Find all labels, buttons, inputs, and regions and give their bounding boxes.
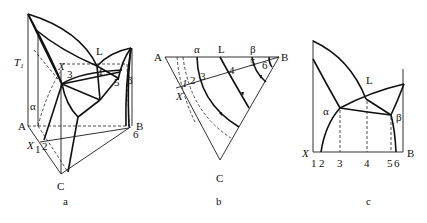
label-vertex-c-b: C [216,172,223,184]
label-x-a: X [26,139,35,151]
label-liquid-a: L [96,45,103,57]
tick-6-c: 6 [394,157,400,169]
label-point-5-a: 5 [114,76,120,88]
caption-a: a [63,195,68,207]
label-vertex-c-a: C [57,180,64,192]
label-vertex-a-b: A [154,51,162,63]
label-alpha-c: α [323,105,329,117]
label-point-6-a: 6 [133,128,139,140]
label-point-2-b: 2 [190,74,196,86]
label-b-c: B [407,147,414,159]
label-liquid-c: L [366,74,373,86]
panel-b-triangle [165,57,279,160]
label-x-b: X [175,90,184,102]
label-point-3-b: 3 [200,70,206,82]
label-x-c: X [301,147,310,159]
label-beta-b: β [250,43,256,55]
tick-5-c: 5 [387,157,393,169]
panel-c-section [313,40,404,152]
tick-4-c: 4 [364,157,370,169]
label-point-1-a: 1 [35,143,41,155]
label-t1: T1 [14,56,24,70]
label-point-1-b: 1 [182,77,188,89]
caption-b: b [216,195,222,207]
tick-1-c: 1 [311,157,317,169]
label-point-2-a: 2 [42,140,48,152]
label-alpha-b: α [194,43,200,55]
label-vertex-b-b: B [281,51,288,63]
label-beta-a: β [127,74,133,86]
label-point-6-b: 6 [262,59,268,71]
ternary-phase-diagram-figure: T1 α L β A B C X X 1 2 3 4 5 6 a A B C X… [0,0,427,223]
label-x-top-a: X [57,60,66,72]
label-point-5-b: 5 [250,56,256,68]
tick-3-c: 3 [337,157,343,169]
label-beta-c: β [396,111,402,123]
tick-2-c: 2 [319,157,325,169]
label-point-4-a: 4 [97,66,103,78]
label-liquid-b: L [218,43,225,55]
label-point-3-a: 3 [67,68,73,80]
caption-c: c [366,195,371,207]
label-point-4-b: 4 [229,64,235,76]
label-alpha-a: α [30,100,36,112]
label-vertex-a-a: A [18,120,26,132]
